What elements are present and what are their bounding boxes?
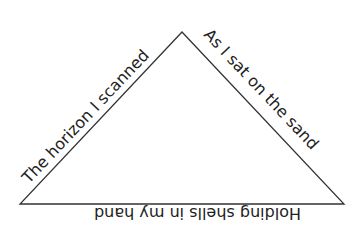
bottom-side-line: Holding shells in my hand (94, 204, 301, 223)
triangle-poem-diagram: The horizon I scanned As I sat on the sa… (0, 0, 364, 238)
left-side-line: The horizon I scanned (17, 46, 152, 188)
right-side-line: As I sat on the sand (200, 25, 323, 153)
